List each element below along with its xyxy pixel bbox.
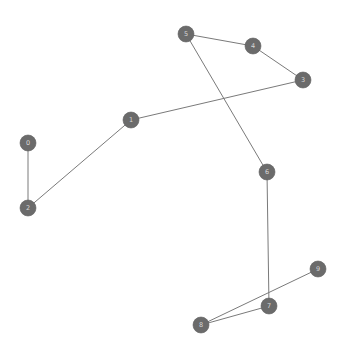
graph-node-8[interactable]: 8 bbox=[193, 317, 209, 333]
graph-node-5[interactable]: 5 bbox=[178, 26, 194, 42]
graph-node-circle-3[interactable] bbox=[295, 72, 311, 88]
graph-node-circle-6[interactable] bbox=[259, 164, 275, 180]
graph-edge-5-6 bbox=[186, 34, 267, 172]
graph-edge-6-7 bbox=[267, 172, 269, 306]
graph-node-circle-8[interactable] bbox=[193, 317, 209, 333]
edge-layer bbox=[28, 34, 318, 325]
graph-edge-3-4 bbox=[253, 46, 303, 80]
graph-node-circle-0[interactable] bbox=[20, 135, 36, 151]
graph-node-circle-7[interactable] bbox=[261, 298, 277, 314]
graph-edge-8-9 bbox=[201, 269, 318, 325]
graph-edge-2-1 bbox=[28, 120, 131, 208]
graph-node-0[interactable]: 0 bbox=[20, 135, 36, 151]
graph-node-circle-1[interactable] bbox=[123, 112, 139, 128]
graph-node-2[interactable]: 2 bbox=[20, 200, 36, 216]
graph-node-3[interactable]: 3 bbox=[295, 72, 311, 88]
network-graph-canvas: 0123456789 bbox=[0, 0, 343, 352]
graph-node-9[interactable]: 9 bbox=[310, 261, 326, 277]
graph-node-circle-2[interactable] bbox=[20, 200, 36, 216]
graph-node-circle-4[interactable] bbox=[245, 38, 261, 54]
graph-node-circle-5[interactable] bbox=[178, 26, 194, 42]
graph-node-4[interactable]: 4 bbox=[245, 38, 261, 54]
network-graph-svg: 0123456789 bbox=[0, 0, 343, 352]
graph-node-7[interactable]: 7 bbox=[261, 298, 277, 314]
graph-node-1[interactable]: 1 bbox=[123, 112, 139, 128]
graph-node-6[interactable]: 6 bbox=[259, 164, 275, 180]
graph-node-circle-9[interactable] bbox=[310, 261, 326, 277]
graph-edge-4-5 bbox=[186, 34, 253, 46]
